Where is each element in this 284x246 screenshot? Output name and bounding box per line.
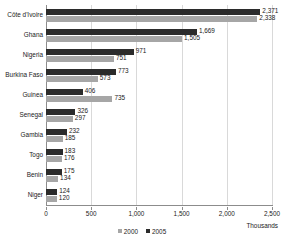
bar-2000 <box>46 196 57 202</box>
bar-2000 <box>46 16 257 22</box>
bar-2005 <box>46 29 197 35</box>
bar-2000 <box>46 36 182 42</box>
value-label: 2,338 <box>259 15 275 21</box>
bar-2000 <box>46 76 98 82</box>
bar-2000 <box>46 56 114 62</box>
legend-item-2000[interactable]: 2000 <box>118 228 138 236</box>
value-label: 573 <box>100 75 111 81</box>
value-label: 751 <box>116 55 127 61</box>
bar-group: Benin175134 <box>46 165 272 185</box>
chart-title <box>0 0 284 4</box>
bar-group: Niger124120 <box>46 185 272 205</box>
bar-group: Togo183176 <box>46 145 272 165</box>
x-tick-label: 2,000 <box>219 210 235 218</box>
value-label: 406 <box>85 88 96 94</box>
value-label: 297 <box>75 115 86 121</box>
bar-2005 <box>46 9 260 15</box>
category-label: Nigeria <box>0 51 43 59</box>
category-label: Ghana <box>0 31 43 39</box>
bar-chart: Côte d'Ivoire2,3712,338Ghana1,6691,505Ni… <box>0 0 284 246</box>
value-label: 176 <box>64 155 75 161</box>
category-label: Burkina Faso <box>0 71 43 79</box>
value-label: 971 <box>136 48 147 54</box>
chart-legend: 20002005 <box>0 228 284 236</box>
bar-group: Ghana1,6691,505 <box>46 25 272 45</box>
bar-2005 <box>46 149 63 155</box>
value-label: 1,505 <box>184 35 200 41</box>
legend-label: 2000 <box>124 228 138 235</box>
category-label: Senegal <box>0 111 43 119</box>
value-label: 120 <box>59 195 70 201</box>
plot-area: Côte d'Ivoire2,3712,338Ghana1,6691,505Ni… <box>46 5 272 205</box>
x-tick-label: 2,500 <box>264 210 280 218</box>
category-label: Benin <box>0 171 43 179</box>
bar-group: Gambia232185 <box>46 125 272 145</box>
bar-group: Senegal326297 <box>46 105 272 125</box>
value-label: 735 <box>114 95 125 101</box>
category-label: Niger <box>0 191 43 199</box>
bar-2000 <box>46 176 58 182</box>
bar-2005 <box>46 189 57 195</box>
bar-2000 <box>46 96 112 102</box>
value-label: 134 <box>60 175 71 181</box>
legend-item-2005[interactable]: 2005 <box>146 228 166 236</box>
legend-label: 2005 <box>152 228 166 235</box>
value-label: 1,669 <box>199 28 215 34</box>
x-tick-label: 1,500 <box>174 210 190 218</box>
bar-2000 <box>46 116 73 122</box>
x-tick-label: 500 <box>86 210 97 218</box>
value-label: 185 <box>65 135 76 141</box>
legend-swatch-icon <box>118 229 122 233</box>
bar-group: Nigeria971751 <box>46 45 272 65</box>
bar-2000 <box>46 156 62 162</box>
bar-2005 <box>46 89 83 95</box>
bar-group: Guinea406735 <box>46 85 272 105</box>
value-label: 773 <box>118 68 129 74</box>
bar-2005 <box>46 129 67 135</box>
category-label: Togo <box>0 151 43 159</box>
x-axis-ticks: 05001,0001,5002,0002,500 <box>46 207 272 219</box>
category-label: Côte d'Ivoire <box>0 11 43 19</box>
x-axis-line <box>46 205 273 206</box>
x-tick-label: 0 <box>44 210 48 218</box>
bar-2000 <box>46 136 63 142</box>
category-label: Gambia <box>0 131 43 139</box>
category-label: Guinea <box>0 91 43 99</box>
gridline <box>272 5 273 205</box>
bar-group: Burkina Faso773573 <box>46 65 272 85</box>
bar-group: Côte d'Ivoire2,3712,338 <box>46 5 272 25</box>
bar-2005 <box>46 109 75 115</box>
legend-swatch-icon <box>146 229 150 233</box>
x-tick-label: 1,000 <box>128 210 144 218</box>
